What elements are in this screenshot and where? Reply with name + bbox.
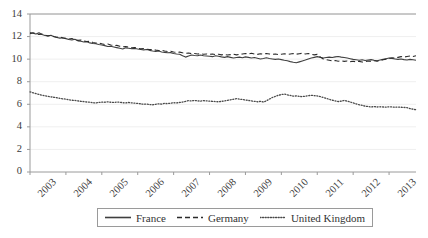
legend-label-germany: Germany (208, 212, 249, 224)
legend-swatch-dotted-icon (260, 213, 286, 222)
chart-legend: France Germany United Kingdom (97, 208, 373, 227)
legend-swatch-dashed-icon (177, 213, 203, 222)
legend-label-france: France (136, 212, 166, 224)
legend-item-france: France (105, 212, 166, 224)
legend-swatch-solid-icon (105, 213, 131, 222)
legend-item-united-kingdom: United Kingdom (260, 212, 365, 224)
line-chart: 14 12 10 8 6 4 2 0 2003 2004 2005 2006 2… (0, 0, 428, 238)
legend-item-germany: Germany (177, 212, 249, 224)
plot-area (0, 0, 428, 238)
legend-label-united-kingdom: United Kingdom (291, 212, 365, 224)
